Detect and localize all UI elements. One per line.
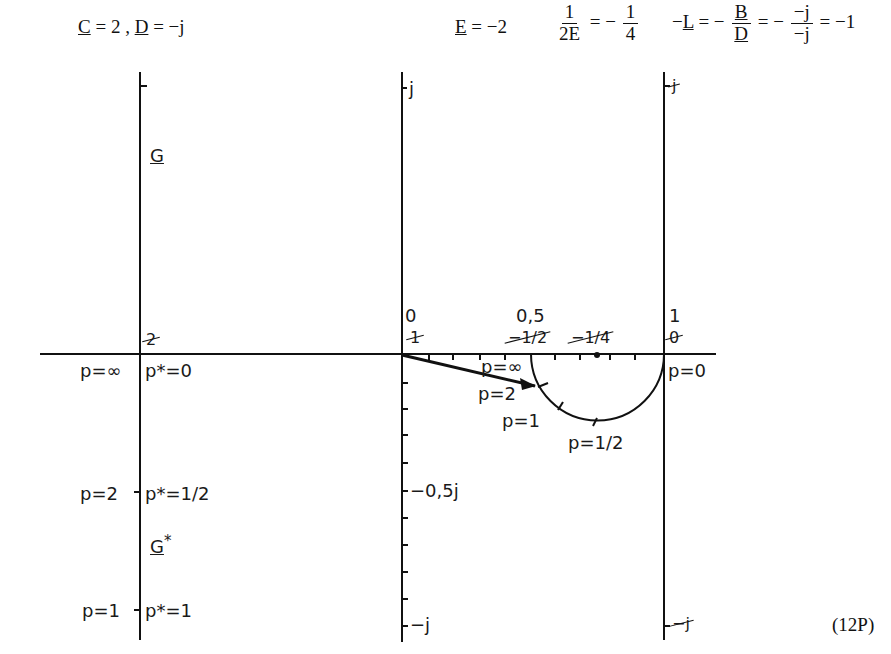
fraction-1-over-4: 14 xyxy=(623,2,639,45)
symbol-d: D xyxy=(135,16,149,37)
label-p-infinity-left: p=∞ xyxy=(80,360,122,381)
label-struck-j: j xyxy=(672,76,676,95)
label-g-star: G* xyxy=(150,532,171,557)
label-j-top: j xyxy=(409,78,414,99)
label-minus-half-j: −0,5j xyxy=(410,480,459,501)
label-p-star-1: p*=1 xyxy=(145,600,192,621)
label-struck-minus-quarter: −1/4 xyxy=(571,328,610,347)
label-p-2: p=2 xyxy=(478,383,516,404)
label-p-1: p=1 xyxy=(502,410,540,431)
symbol-l: L xyxy=(683,11,694,32)
equation-e: E = −2 xyxy=(455,16,507,38)
label-p-star-0: p*=0 xyxy=(145,360,192,381)
label-zero: 0 xyxy=(405,305,416,326)
label-p-2-left: p=2 xyxy=(80,483,118,504)
symbol-c: C xyxy=(78,16,91,37)
label-struck-1: 1 xyxy=(410,328,420,347)
equation-c-d: C = 2 , D = −j xyxy=(78,16,185,38)
label-p-0: p=0 xyxy=(668,360,706,381)
fraction-1-over-2e: 12E xyxy=(556,2,583,45)
label-g: G xyxy=(150,145,164,166)
fraction-b-over-d: BD xyxy=(731,2,751,45)
label-one: 1 xyxy=(669,305,680,326)
label-p-half: p=1/2 xyxy=(568,432,623,453)
label-struck-minus-half: −1/2 xyxy=(508,328,547,347)
label-12p: (12P) xyxy=(832,614,874,636)
equation-l: −L = − BD = − −j−j = −1 xyxy=(672,2,855,45)
label-p-star-half: p*=1/2 xyxy=(145,483,209,504)
label-half: 0,5 xyxy=(516,305,545,326)
equation-fraction: 12E = − 14 xyxy=(554,2,640,45)
label-minus-j: −j xyxy=(410,614,430,635)
symbol-e: E xyxy=(455,16,467,37)
label-p-infinity: p=∞ xyxy=(481,356,523,377)
diagram-lines xyxy=(0,0,891,654)
label-p-1-left: p=1 xyxy=(82,600,120,621)
fraction-j-over-j: −j−j xyxy=(791,2,813,45)
label-struck-minus-j: −j xyxy=(672,614,690,633)
label-struck-2: 2 xyxy=(146,330,156,349)
label-struck-zero: 0 xyxy=(669,328,679,347)
